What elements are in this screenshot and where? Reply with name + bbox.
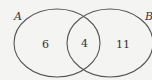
venn-diagram: A B 6 4 11 xyxy=(0,0,152,80)
set-b-circle xyxy=(67,9,152,77)
set-a-label: A xyxy=(13,10,22,23)
intersection-count: 4 xyxy=(81,37,88,50)
set-b-only-count: 11 xyxy=(116,38,130,51)
set-a-only-count: 6 xyxy=(42,38,49,51)
set-b-label: B xyxy=(144,10,152,23)
